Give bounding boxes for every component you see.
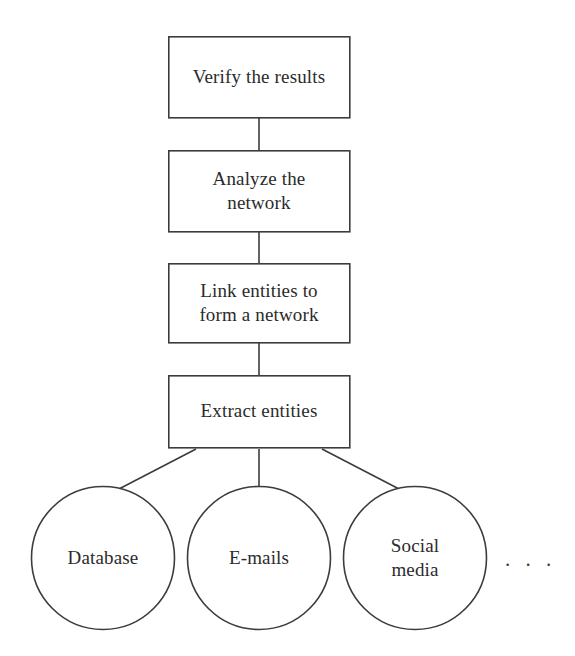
- node-shape-social-media: [344, 487, 487, 630]
- source-node-shapes: [32, 487, 487, 630]
- node-shape-extract-entities: [169, 376, 350, 448]
- node-shape-database: [32, 487, 175, 630]
- node-shape-e-mails: [188, 487, 331, 630]
- flowchart-diagram: Verify the results Analyze the network L…: [0, 0, 575, 656]
- connector-database-to-extract: [117, 449, 196, 490]
- node-shape-verify-the-results: [169, 37, 350, 118]
- more-sources-ellipsis: . . .: [505, 549, 556, 570]
- connector-social-to-extract: [322, 449, 401, 490]
- flowchart-graphics-layer: [0, 0, 575, 656]
- node-shape-analyze-the-network: [169, 151, 350, 232]
- node-shape-link-entities-to-form-a-network: [169, 264, 350, 343]
